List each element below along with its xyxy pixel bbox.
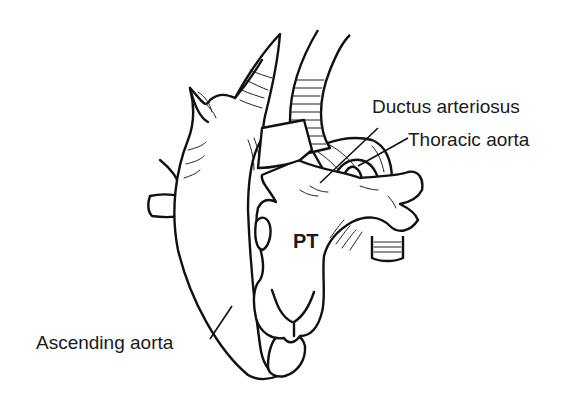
label-ascending-aorta: Ascending aorta — [36, 333, 173, 352]
pt-notch — [255, 218, 270, 250]
left-appendage — [258, 120, 312, 168]
right-lower-vessel — [372, 236, 403, 261]
heart-diagram: Ductus arteriosus Thoracic aorta PT Asce… — [0, 0, 579, 403]
label-pulmonary-trunk: PT — [293, 231, 319, 251]
label-ductus-arteriosus: Ductus arteriosus — [372, 97, 520, 116]
label-thoracic-aorta: Thoracic aorta — [408, 130, 529, 149]
